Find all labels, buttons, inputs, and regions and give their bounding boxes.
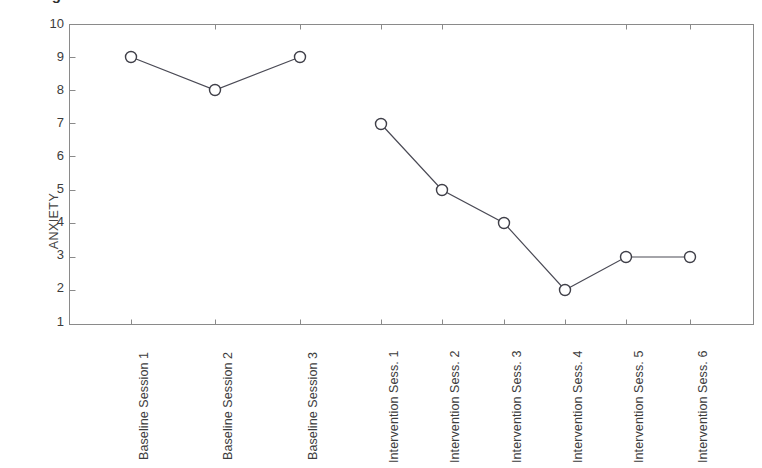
x-tick-label-intervention-sess-4: Intervention Sess. 4 [571,351,585,463]
x-tick-label-intervention-sess-5: Intervention Sess. 5 [632,351,646,463]
x-tick-label-baseline-session-1: Baseline Session 1 [137,352,151,460]
x-tick-label-baseline-session-2: Baseline Session 2 [221,352,235,460]
anxiety-line-chart: Figure 1. Baseline Period ANXIETY 10 9 8… [0,0,762,468]
x-axis-tick-labels: Baseline Session 1 Baseline Session 2 Ba… [0,0,762,468]
x-tick-label-intervention-sess-3: Intervention Sess. 3 [510,351,524,463]
x-tick-label-intervention-sess-6: Intervention Sess. 6 [696,351,710,463]
x-tick-label-intervention-sess-1: Intervention Sess. 1 [387,351,401,463]
x-tick-label-baseline-session-3: Baseline Session 3 [306,352,320,460]
x-tick-label-intervention-sess-2: Intervention Sess. 2 [448,351,462,463]
